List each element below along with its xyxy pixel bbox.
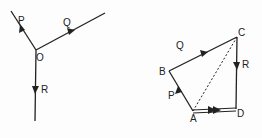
label-d: D [237, 108, 244, 119]
label-o: O [36, 52, 44, 63]
label-b: B [159, 66, 166, 77]
arrow-resultant-2-icon [213, 106, 221, 114]
arrow-q-polygon-icon [200, 50, 208, 57]
force-polygon-diagram: B A C D Q R P [159, 27, 249, 124]
label-q: Q [63, 17, 71, 28]
label-c: C [238, 27, 245, 38]
label-a: A [190, 113, 197, 124]
label-p-polygon: P [168, 90, 175, 101]
label-q-polygon: Q [176, 40, 184, 51]
force-diagrams: P Q O R B A C D Q R P [0, 0, 262, 138]
arrow-r-icon [32, 86, 39, 94]
label-r-polygon: R [242, 59, 249, 70]
label-r: R [41, 84, 48, 95]
concurrent-forces-diagram: P Q O R [11, 11, 105, 121]
label-p: P [18, 15, 25, 26]
edge-cd-r [236, 37, 237, 109]
arrow-r-polygon-icon [233, 62, 240, 70]
